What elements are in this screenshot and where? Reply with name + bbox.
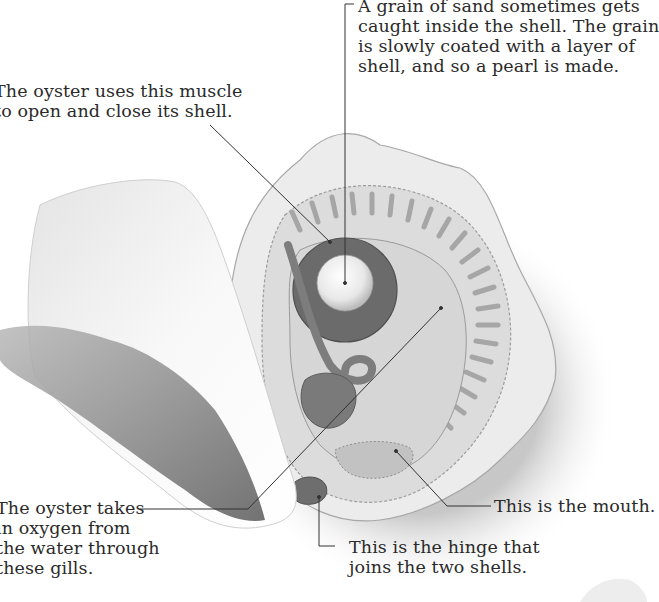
stomach bbox=[301, 373, 356, 428]
label-pearl-line: shell, and so a pearl is made. bbox=[358, 56, 659, 76]
label-pearl-line: caught inside the shell. The grain bbox=[358, 16, 659, 36]
label-pearl-line: is slowly coated with a layer of bbox=[358, 36, 659, 56]
label-gills-line: The oyster takes bbox=[0, 498, 160, 518]
label-muscle: The oyster uses this muscle to open and … bbox=[0, 81, 242, 121]
label-muscle-line: to open and close its shell. bbox=[0, 101, 242, 121]
label-pearl-line: A grain of sand sometimes gets bbox=[358, 0, 659, 16]
hinge bbox=[292, 477, 327, 504]
label-hinge: This is the hinge that joins the two she… bbox=[349, 537, 540, 577]
label-hinge-line: joins the two shells. bbox=[349, 557, 540, 577]
label-hinge-line: This is the hinge that bbox=[349, 537, 540, 557]
decorative-shell-fragment bbox=[580, 579, 647, 602]
label-gills-line: the water through bbox=[0, 538, 160, 558]
label-mouth: This is the mouth. bbox=[494, 496, 656, 516]
label-muscle-line: The oyster uses this muscle bbox=[0, 81, 242, 101]
label-gills: The oyster takes in oxygen from the wate… bbox=[0, 498, 160, 578]
label-mouth-line: This is the mouth. bbox=[494, 496, 656, 516]
label-gills-line: in oxygen from bbox=[0, 518, 160, 538]
label-gills-line: these gills. bbox=[0, 558, 160, 578]
label-pearl: A grain of sand sometimes gets caught in… bbox=[358, 0, 659, 76]
